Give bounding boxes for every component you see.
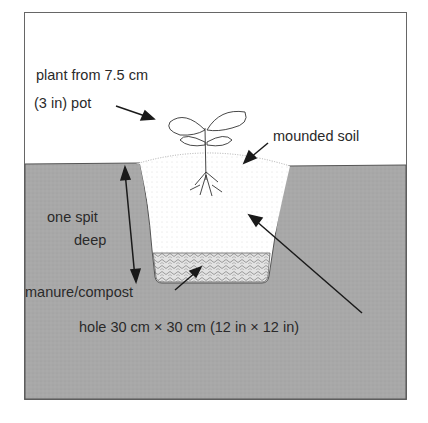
compost-label: manure/compost [25,285,133,300]
mounded-soil-label: mounded soil [273,129,359,144]
depth-label-line1: one spit [47,210,98,225]
hole-size-label: hole 30 cm × 30 cm (12 in × 12 in) [79,320,299,335]
plant-label-line2: (3 in) pot [34,96,91,111]
compost-layer [153,253,270,282]
plant-label-line1: plant from 7.5 cm [36,68,148,83]
depth-label-line2: deep [74,233,106,248]
mounded-soil [136,152,290,253]
